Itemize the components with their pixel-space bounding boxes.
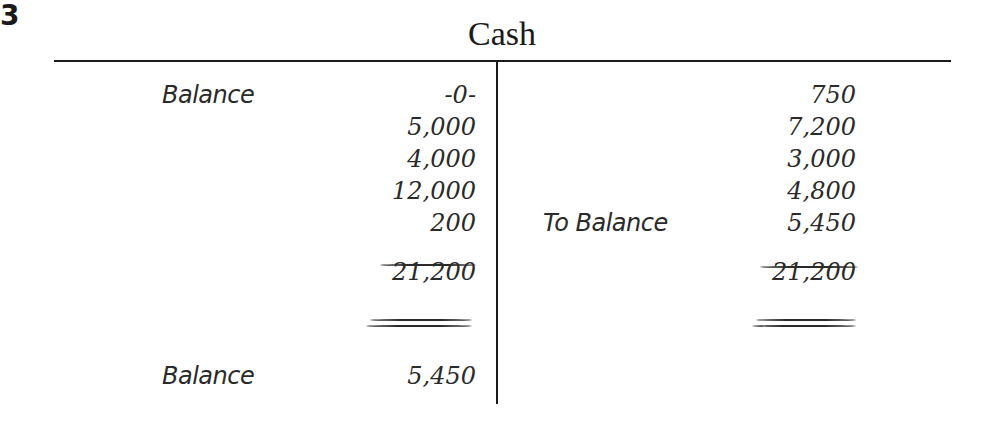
credit-entry-label: To Balance <box>543 208 668 238</box>
debit-total-double-rule-lower <box>366 325 472 327</box>
debit-total: 21,200 <box>356 257 476 287</box>
credit-total-double-rule-upper <box>756 319 856 321</box>
t-account-center-rule <box>496 61 498 404</box>
credit-total: 21,200 <box>736 257 856 287</box>
credit-entry-amount: 7,200 <box>736 112 856 142</box>
debit-entry-amount: 5,000 <box>356 112 476 142</box>
debit-entry-label: Balance <box>162 80 254 110</box>
debit-closing-label: Balance <box>162 361 254 391</box>
credit-total-double-rule-lower <box>752 325 856 327</box>
debit-total-double-rule-upper <box>370 319 472 321</box>
credit-entry-amount: 5,450 <box>736 208 856 238</box>
debit-entry-amount: 12,000 <box>356 176 476 206</box>
credit-entry-amount: 3,000 <box>736 144 856 174</box>
credit-entry-amount: 4,800 <box>736 176 856 206</box>
credit-entry-amount: 750 <box>736 80 856 110</box>
debit-closing-amount: 5,450 <box>356 361 476 391</box>
debit-entry-amount: 200 <box>356 208 476 238</box>
debit-entry-amount: -0- <box>356 80 476 110</box>
debit-entry-amount: 4,000 <box>356 144 476 174</box>
t-account-top-rule <box>54 60 951 62</box>
account-title: Cash <box>468 15 536 52</box>
